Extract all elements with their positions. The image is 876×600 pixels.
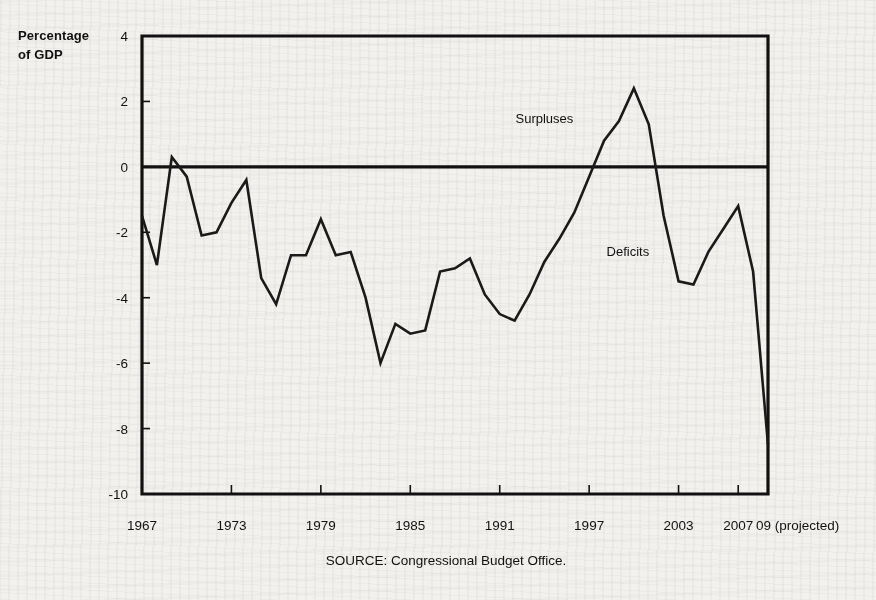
- y-tick-label: -6: [116, 356, 128, 371]
- x-tick-label: 1973: [216, 518, 246, 533]
- series-annotation: Surpluses: [516, 111, 574, 126]
- x-tick-label: 1979: [306, 518, 336, 533]
- source-note: SOURCE: Congressional Budget Office.: [0, 553, 876, 568]
- x-tick-label: 1985: [395, 518, 425, 533]
- x-tick-label: 1997: [574, 518, 604, 533]
- y-tick-label: -10: [108, 487, 128, 502]
- y-tick-label: -8: [116, 422, 128, 437]
- chart-plot-area: 420-2-4-6-8-1019671973197919851991199720…: [0, 0, 876, 600]
- y-tick-label: 0: [120, 160, 128, 175]
- y-tick-label: 2: [120, 94, 128, 109]
- x-tick-label: 1991: [485, 518, 515, 533]
- y-tick-label: 4: [120, 29, 128, 44]
- series-annotation: Deficits: [607, 244, 650, 259]
- x-tick-label: 1967: [127, 518, 157, 533]
- x-tick-label: 2003: [664, 518, 694, 533]
- y-tick-label: -2: [116, 225, 128, 240]
- x-tick-label: 09 (projected): [756, 518, 839, 533]
- data-series-line: [142, 88, 768, 445]
- y-tick-label: -4: [116, 291, 128, 306]
- x-tick-label: 2007: [723, 518, 753, 533]
- budget-deficit-chart-figure: Percentage of GDP 420-2-4-6-8-1019671973…: [0, 0, 876, 600]
